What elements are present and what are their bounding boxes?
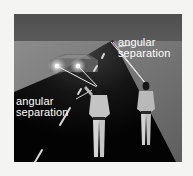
far-angular-separation-label: angular separation [118, 37, 170, 59]
near-angular-separation-label: angular separation [16, 96, 68, 118]
far-label-line2: separation [118, 48, 170, 59]
near-label-line2: separation [16, 107, 68, 118]
night-road-illustration: angular separation angular separation [14, 14, 182, 162]
